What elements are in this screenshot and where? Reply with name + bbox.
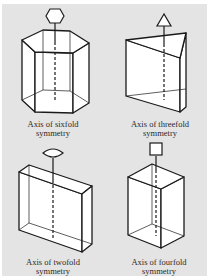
square-symbol-icon [150,143,162,155]
figure-threefold: Axis of threefold symmetry [106,0,213,140]
lens-symbol-icon [43,149,63,157]
caption-fourfold: Axis of fourfold symmetry [109,258,209,276]
caption-line2: symmetry [3,129,103,138]
hexagon-symbol-icon [46,9,64,23]
figure-sixfold: Axis of sixfold symmetry [0,0,106,140]
figure-twofold: Axis of twofold symmetry [0,140,106,280]
caption-line2: symmetry [3,267,103,276]
caption-twofold: Axis of twofold symmetry [3,258,103,276]
caption-sixfold: Axis of sixfold symmetry [3,120,103,138]
caption-line2: symmetry [109,267,209,276]
caption-threefold: Axis of threefold symmetry [110,120,210,138]
triangle-symbol-icon [157,14,171,26]
caption-line2: symmetry [110,129,210,138]
figure-fourfold: Axis of fourfold symmetry [106,140,213,280]
